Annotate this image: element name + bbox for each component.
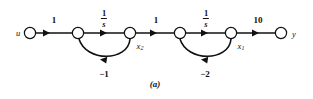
gain-label-1: 1	[52, 16, 57, 25]
feedback-gain-label-2: −2	[200, 70, 210, 79]
signal-flow-graph-figure: u y 1 1 s 1 1 s 10 −1 −2 x2 x1 (a)	[0, 0, 313, 99]
arrowhead-feedback-2	[201, 57, 208, 64]
arrowhead-gain2	[150, 30, 157, 37]
gain-label-3: 10	[254, 16, 263, 25]
state-label-x1: x1	[238, 42, 245, 51]
feedback-gain-label-1: −1	[99, 70, 109, 79]
state-label-x1-subscript: 1	[241, 45, 244, 51]
summing-node-1	[174, 27, 185, 38]
input-node	[24, 27, 35, 38]
arrowhead-gain3	[252, 30, 259, 37]
integrator-2-denominator: s	[203, 20, 209, 29]
output-node	[275, 27, 286, 38]
state-node-x2	[124, 27, 135, 38]
state-node-x1	[225, 27, 236, 38]
input-label: u	[16, 29, 20, 38]
state-label-x2: x2	[137, 42, 144, 51]
figure-caption: (a)	[150, 80, 161, 89]
summing-node-2	[72, 27, 83, 38]
gain-label-integrator-1: 1 s	[101, 9, 107, 29]
arrowhead-integrator1	[100, 30, 107, 37]
arrowhead-feedback-1	[100, 57, 107, 64]
integrator-1-numerator: 1	[101, 9, 107, 18]
arrowhead-gain1	[43, 30, 50, 37]
arrowhead-integrator2	[201, 30, 208, 37]
output-label: y	[292, 30, 296, 39]
gain-label-integrator-2: 1 s	[203, 9, 209, 29]
integrator-1-denominator: s	[101, 20, 107, 29]
state-label-x2-subscript: 2	[140, 45, 143, 51]
gain-label-2: 1	[154, 16, 159, 25]
integrator-2-numerator: 1	[203, 9, 209, 18]
feedback-arc-minus-1	[79, 39, 130, 56]
feedback-arc-minus-2	[180, 39, 231, 56]
